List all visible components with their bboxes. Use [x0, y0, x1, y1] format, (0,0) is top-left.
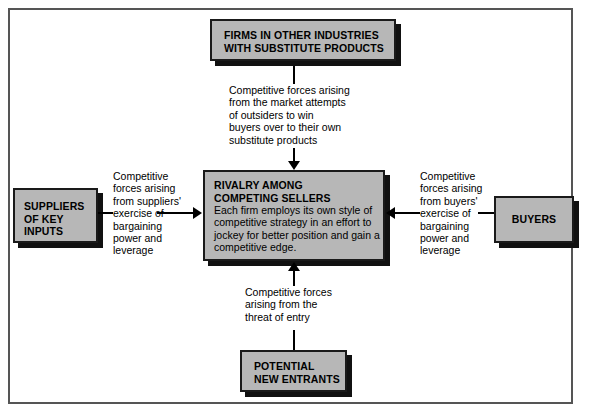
- connector-entrants-upper: [293, 270, 295, 286]
- box-potential-new-entrants: POTENTIAL NEW ENTRANTS: [240, 350, 347, 392]
- box-rivalry-among-competing-sellers: RIVALRY AMONG COMPETING SELLERS Each fir…: [203, 170, 385, 261]
- box-suppliers-title: SUPPLIERS OF KEY INPUTS: [24, 200, 96, 238]
- arrow-up-icon: [288, 262, 300, 271]
- box-suppliers-of-key-inputs: SUPPLIERS OF KEY INPUTS: [13, 188, 98, 243]
- connector-entrants-lower: [293, 330, 295, 350]
- connector-substitutes-upper: [293, 66, 295, 84]
- box-substitute-products-title: FIRMS IN OTHER INDUSTRIES WITH SUBSTITUT…: [224, 29, 394, 54]
- note-buyers: Competitive forces arising from buyers' …: [420, 170, 498, 257]
- box-entrants-title: POTENTIAL NEW ENTRANTS: [254, 360, 345, 385]
- note-entrants: Competitive forces arising from the thre…: [245, 286, 365, 323]
- arrow-left-icon: [386, 207, 395, 219]
- box-substitute-products: FIRMS IN OTHER INDUSTRIES WITH SUBSTITUT…: [210, 19, 396, 61]
- note-substitutes: Competitive forces arising from the mark…: [229, 84, 409, 146]
- connector-suppliers-right: [157, 212, 194, 214]
- connector-suppliers-left: [98, 212, 113, 214]
- connector-buyers-left: [394, 212, 420, 214]
- diagram-canvas: FIRMS IN OTHER INDUSTRIES WITH SUBSTITUT…: [0, 0, 593, 413]
- arrow-right-icon: [193, 207, 202, 219]
- box-rivalry-body: Each firm employs its own style of compe…: [214, 204, 383, 253]
- box-buyers: BUYERS: [494, 196, 574, 243]
- box-buyers-title: BUYERS: [507, 213, 572, 226]
- arrow-down-icon: [288, 161, 300, 170]
- box-rivalry-title: RIVALRY AMONG COMPETING SELLERS: [214, 179, 383, 204]
- connector-substitutes-lower: [293, 148, 295, 162]
